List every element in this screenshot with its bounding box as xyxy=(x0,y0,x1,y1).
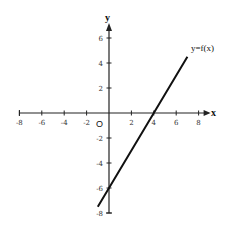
x-tick-label: 6 xyxy=(174,119,179,127)
y-tick-label: -8 xyxy=(96,210,103,218)
y-tick-label: 6 xyxy=(99,35,104,43)
y-tick-label: 4 xyxy=(99,60,104,68)
labels: x y O y=f(x) xyxy=(96,12,216,129)
y-tick-label: -4 xyxy=(96,160,103,168)
origin-label: O xyxy=(96,119,103,129)
plot-area xyxy=(98,57,188,207)
y-tick-label: 2 xyxy=(99,85,103,93)
x-tick-label: 2 xyxy=(129,119,133,127)
y-axis-label: y xyxy=(105,12,110,23)
function-line xyxy=(98,57,188,207)
function-graph: -8-6-4-22468642-2-4-6-8 x y O y=f(x) xyxy=(0,0,230,227)
y-axis-arrow-icon xyxy=(106,23,112,31)
axes xyxy=(19,23,210,213)
x-tick-label: 4 xyxy=(152,119,157,127)
x-tick-label: -2 xyxy=(83,119,90,127)
y-tick-label: -6 xyxy=(96,185,103,193)
x-tick-label: 8 xyxy=(196,119,200,127)
x-tick-label: -6 xyxy=(38,119,45,127)
function-label: y=f(x) xyxy=(191,43,214,53)
x-axis-arrow-icon xyxy=(204,110,211,116)
y-tick-label: -2 xyxy=(96,135,103,143)
x-axis-label: x xyxy=(211,107,216,118)
x-tick-label: -4 xyxy=(61,119,68,127)
x-tick-label: -8 xyxy=(16,119,23,127)
